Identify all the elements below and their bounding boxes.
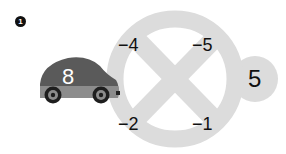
label-bottom-right: −1 (192, 115, 213, 133)
illustration-canvas (0, 0, 286, 154)
car-icon (40, 57, 120, 103)
label-top-left: −4 (118, 36, 139, 54)
problem-number-badge: 1 (15, 16, 26, 27)
math-exercise: 1 8 −4 −5 −2 −1 5 (0, 0, 286, 154)
result-value: 5 (248, 67, 261, 91)
label-bottom-left: −2 (118, 115, 139, 133)
label-top-right: −5 (192, 36, 213, 54)
car-value: 8 (62, 66, 74, 88)
